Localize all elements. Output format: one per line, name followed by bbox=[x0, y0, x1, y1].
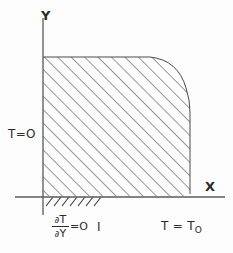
partial-derivative-fraction: ∂T ∂Y bbox=[52, 214, 69, 239]
hatched-region bbox=[43, 57, 190, 196]
bottom-boundary-equals: =O bbox=[70, 221, 88, 232]
boundary-condition-diagram: Y X T=O T = TO ∂T ∂Y =O I bbox=[0, 0, 233, 253]
right-boundary-label: T = TO bbox=[161, 220, 202, 235]
axis-label-y: Y bbox=[41, 9, 50, 22]
bottom-tick-mark: I bbox=[97, 221, 101, 233]
right-boundary-subscript: O bbox=[195, 225, 202, 235]
bottom-boundary-label: ∂T ∂Y =O I bbox=[52, 214, 100, 239]
denominator-variable: Y bbox=[59, 227, 66, 240]
axis-label-x: X bbox=[205, 180, 215, 193]
bottom-hatch-ticks bbox=[46, 197, 101, 206]
left-boundary-label: T=O bbox=[8, 128, 36, 140]
fraction-denominator: ∂Y bbox=[54, 228, 67, 239]
numerator-variable: T bbox=[59, 213, 66, 226]
fraction-numerator: ∂T bbox=[54, 214, 67, 225]
right-boundary-text: T = T bbox=[161, 219, 195, 233]
